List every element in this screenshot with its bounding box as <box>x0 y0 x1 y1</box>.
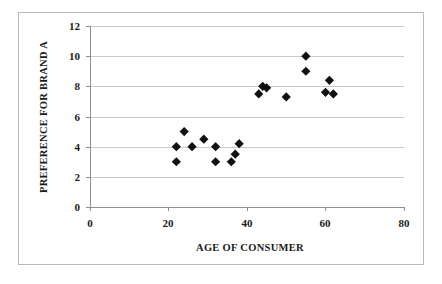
y-tick-label-12: 12 <box>69 20 81 32</box>
data-point <box>172 157 181 166</box>
y-tick-label-10: 10 <box>69 50 81 62</box>
x-tick-labels: 0 20 40 60 80 <box>87 217 410 229</box>
data-point <box>329 89 338 98</box>
scatter-plot: 12 10 8 6 4 2 0 0 20 40 60 80 AGE OF CON… <box>0 0 442 284</box>
y-tick-label-8: 8 <box>75 80 81 92</box>
data-point-group <box>172 52 338 167</box>
data-point <box>282 92 291 101</box>
data-point <box>187 142 196 151</box>
y-tick-label-2: 2 <box>75 171 81 183</box>
y-tick-labels: 12 10 8 6 4 2 0 <box>69 20 81 213</box>
x-tick-label-0: 0 <box>87 217 93 229</box>
data-point <box>321 88 330 97</box>
y-tick-label-0: 0 <box>75 201 81 213</box>
data-point <box>180 127 189 136</box>
data-point <box>211 157 220 166</box>
scatter-chart-figure: 12 10 8 6 4 2 0 0 20 40 60 80 AGE OF CON… <box>0 0 442 284</box>
y-tick-label-6: 6 <box>75 111 81 123</box>
x-tick-label-20: 20 <box>163 217 175 229</box>
x-axis-title: AGE OF CONSUMER <box>196 242 304 253</box>
data-point <box>301 52 310 61</box>
y-tick-label-4: 4 <box>75 141 81 153</box>
y-axis-title: PREFERENCE FOR BRAND A <box>38 41 49 193</box>
data-point <box>172 142 181 151</box>
data-point <box>254 89 263 98</box>
x-tick-label-60: 60 <box>320 217 332 229</box>
y-axis-ticks <box>86 26 90 207</box>
data-point <box>211 142 220 151</box>
gridlines <box>90 26 404 177</box>
data-point <box>325 76 334 85</box>
x-axis-ticks <box>90 207 404 211</box>
data-point <box>227 157 236 166</box>
x-tick-label-80: 80 <box>399 217 411 229</box>
data-point <box>231 150 240 159</box>
data-point <box>199 135 208 144</box>
data-point <box>301 67 310 76</box>
x-tick-label-40: 40 <box>242 217 254 229</box>
